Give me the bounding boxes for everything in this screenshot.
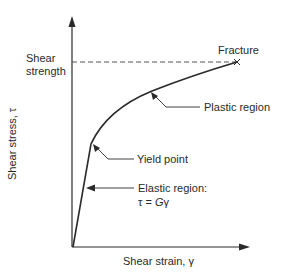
x-axis-label: Shear strain, γ [123,255,194,268]
shear-strength-label-line2: strength [26,65,66,78]
y-axis-arrow-icon [69,16,76,27]
yield-point-label: Yield point [137,153,188,166]
elastic-formula-gamma: γ [163,196,169,208]
y-axis-label: Shear stress, τ [6,108,18,180]
elastic-region-label: Elastic region: [138,182,207,195]
fracture-label: Fracture [218,44,259,57]
plastic-region-arrow-icon [151,92,158,100]
elastic-formula-lhs: τ = [138,196,155,208]
elastic-region-arrow-icon [86,185,95,192]
plastic-region-leader [154,95,200,107]
x-axis-arrow-icon [239,244,250,251]
diagram-graphics [0,0,283,273]
plastic-region-label: Plastic region [204,101,270,114]
shear-stress-strain-diagram: Shear strength Fracture Plastic region Y… [0,0,283,273]
shear-strength-label-line1: Shear [26,52,55,65]
yield-point-leader [96,147,134,159]
elastic-line [73,144,91,247]
elastic-formula: τ = Gγ [138,196,169,209]
yield-point-arrow-icon [93,144,100,152]
